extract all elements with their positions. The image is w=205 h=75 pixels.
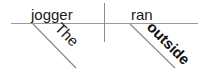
predicate-word: ran [131, 6, 153, 23]
predicate-modifier-word: outside [144, 18, 194, 68]
sentence-diagram: jogger ran The outside [0, 0, 205, 75]
